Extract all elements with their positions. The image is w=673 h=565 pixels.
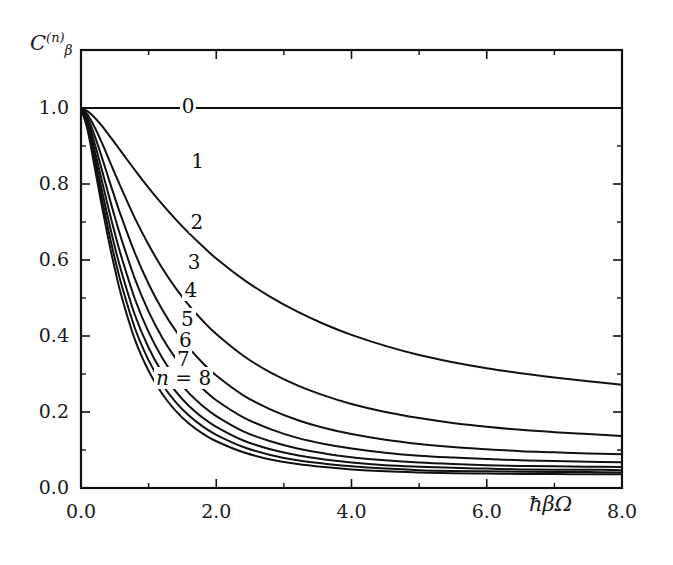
y-tick-label: 0.0: [17, 476, 69, 498]
curve-label: 3: [186, 251, 203, 273]
y-tick-label: 0.2: [17, 400, 69, 422]
y-axis-label-base: C: [30, 31, 46, 55]
y-tick-label: 0.4: [17, 324, 69, 346]
x-tick-label: 8.0: [592, 500, 652, 522]
curve-label: 4: [182, 279, 199, 301]
chart-figure: C(n)β ħβΩ 0.00.20.40.60.81.0 0.02.04.06.…: [0, 0, 673, 565]
y-tick-label: 0.6: [17, 248, 69, 270]
plot-canvas: [0, 0, 673, 565]
x-tick-label: 0.0: [51, 500, 111, 522]
curve-label: 2: [189, 211, 206, 233]
curve-label: n = 8: [154, 367, 213, 389]
y-axis-label-superscript: (n): [46, 30, 65, 45]
y-tick-label: 0.8: [17, 172, 69, 194]
data-curves: [81, 108, 622, 474]
x-axis-label: ħβΩ: [529, 492, 572, 516]
x-tick-label: 4.0: [322, 500, 382, 522]
x-tick-label: 6.0: [457, 500, 517, 522]
y-tick-label: 1.0: [17, 96, 69, 118]
x-tick-label: 2.0: [186, 500, 246, 522]
curve-label: 0: [180, 95, 197, 117]
curve-label: 5: [179, 308, 196, 330]
y-axis-label: C(n)β: [30, 30, 73, 58]
curve-label: 1: [189, 150, 206, 172]
y-axis-label-subscript: β: [65, 42, 73, 58]
